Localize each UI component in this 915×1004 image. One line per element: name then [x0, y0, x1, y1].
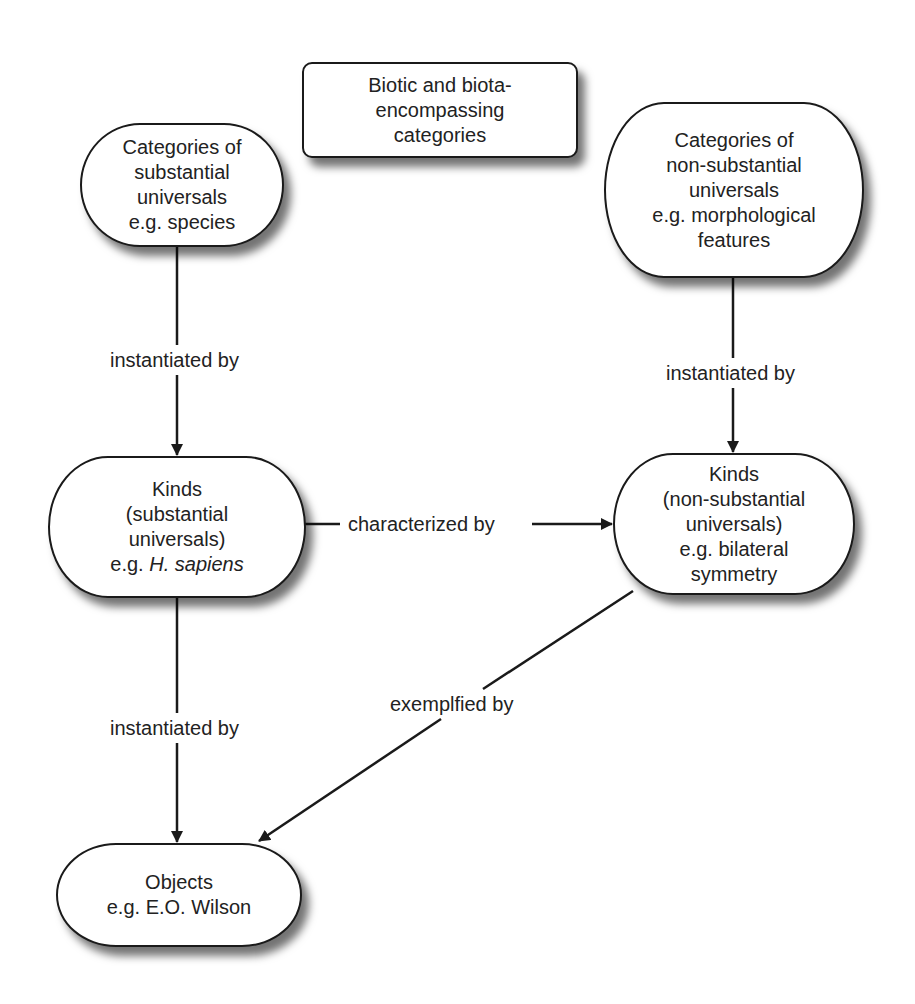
node-kinds-substantial-example: e.g. H. sapiens [110, 552, 243, 577]
node-kinds-nonsubstantial-line-2: (non-substantial [663, 487, 805, 512]
node-objects: Objects e.g. E.O. Wilson [56, 843, 302, 947]
node-kinds-substantial-line-3: universals) [129, 527, 226, 552]
node-objects-line-1: Objects [145, 870, 213, 895]
edge-label-instantiated-right: instantiated by [662, 361, 799, 385]
node-categories-substantial-line-3: universals [137, 185, 227, 210]
node-biotic-categories: Biotic and biota- encompassing categorie… [302, 62, 578, 158]
concept-diagram: Biotic and biota- encompassing categorie… [0, 0, 915, 1004]
node-kinds-nonsubstantial: Kinds (non-substantial universals) e.g. … [613, 453, 855, 595]
node-categories-substantial-line-2: substantial [134, 160, 230, 185]
node-objects-line-2: e.g. E.O. Wilson [107, 895, 252, 920]
node-biotic-categories-line-2: encompassing [376, 98, 505, 123]
node-categories-nonsubstantial-line-5: features [698, 228, 770, 253]
species-name-italic: H. sapiens [149, 553, 244, 575]
edge-label-instantiated-left-bottom: instantiated by [106, 716, 243, 740]
node-kinds-nonsubstantial-line-5: symmetry [691, 562, 778, 587]
node-kinds-nonsubstantial-line-1: Kinds [709, 462, 759, 487]
edge-exemplified-arrow [259, 719, 441, 841]
node-categories-nonsubstantial-line-1: Categories of [675, 128, 794, 153]
node-biotic-categories-line-1: Biotic and biota- [368, 73, 511, 98]
node-kinds-substantial-line-1: Kinds [152, 477, 202, 502]
node-categories-nonsubstantial-line-4: e.g. morphological [652, 203, 815, 228]
node-kinds-substantial: Kinds (substantial universals) e.g. H. s… [48, 456, 306, 598]
node-kinds-nonsubstantial-line-3: universals) [686, 512, 783, 537]
node-categories-substantial-line-1: Categories of [123, 135, 242, 160]
example-prefix: e.g. [110, 553, 149, 575]
node-kinds-nonsubstantial-line-4: e.g. bilateral [680, 537, 789, 562]
node-categories-nonsubstantial-line-2: non-substantial [666, 153, 802, 178]
node-categories-nonsubstantial: Categories of non-substantial universals… [604, 102, 864, 278]
node-kinds-substantial-line-2: (substantial [126, 502, 228, 527]
node-biotic-categories-line-3: categories [394, 123, 486, 148]
node-categories-substantial-line-4: e.g. species [129, 210, 236, 235]
edge-exemplified-line-top [483, 591, 633, 689]
edge-label-characterized: characterized by [344, 512, 499, 536]
edge-label-exemplified: exemplfied by [386, 692, 517, 716]
node-categories-substantial: Categories of substantial universals e.g… [80, 123, 284, 247]
edge-label-instantiated-left-top: instantiated by [106, 348, 243, 372]
node-categories-nonsubstantial-line-3: universals [689, 178, 779, 203]
